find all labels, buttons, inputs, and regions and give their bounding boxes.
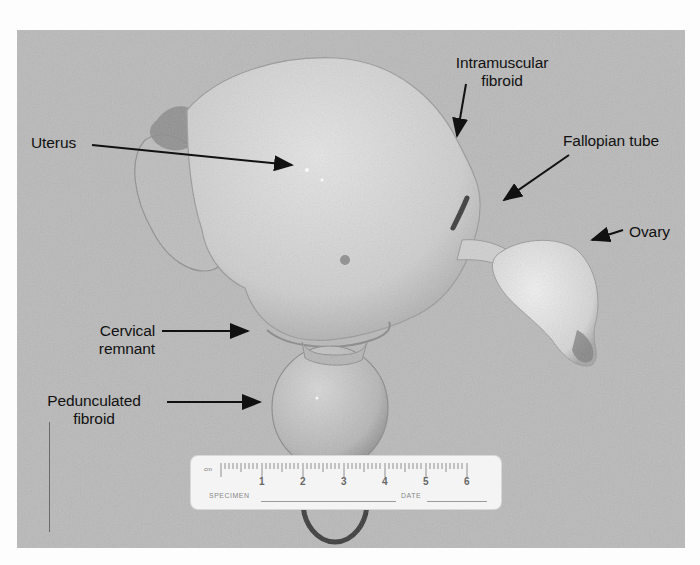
ruler-number-1: 1 — [259, 476, 265, 487]
label-uterus: Uterus — [31, 134, 76, 152]
label-ovary: Ovary — [629, 223, 670, 241]
label-intramuscular-fibroid-line1: Intramuscular — [452, 54, 552, 72]
ruler-number-2: 2 — [300, 476, 306, 487]
label-fallopian-tube: Fallopian tube — [563, 132, 659, 150]
ruler-unit: cm — [204, 466, 212, 472]
label-intramuscular-fibroid-line2: fibroid — [452, 72, 552, 90]
ruler-specimen-label: SPECIMEN — [209, 492, 250, 499]
label-pedunculated-fibroid-line1: Pedunculated — [35, 392, 153, 410]
label-cervical-remnant-line2: remnant — [57, 340, 155, 358]
ruler-specimen-line — [261, 501, 396, 502]
label-cervical-remnant: Cervical remnant — [57, 322, 155, 358]
ruler-number-3: 3 — [341, 476, 347, 487]
ruler-date-line — [427, 501, 487, 502]
margin-line — [49, 422, 50, 532]
label-pedunculated-fibroid-line2: fibroid — [35, 410, 153, 428]
ruler-number-4: 4 — [382, 476, 388, 487]
ruler-number-6: 6 — [464, 476, 470, 487]
ruler-date-label: DATE — [401, 492, 421, 499]
label-cervical-remnant-line1: Cervical — [57, 322, 155, 340]
ruler-number-5: 5 — [423, 476, 429, 487]
label-intramuscular-fibroid: Intramuscular fibroid — [452, 54, 552, 90]
measurement-ruler: cm 1 2 3 4 5 6 SPECIMEN DATE — [191, 456, 501, 509]
label-pedunculated-fibroid: Pedunculated fibroid — [35, 392, 153, 428]
